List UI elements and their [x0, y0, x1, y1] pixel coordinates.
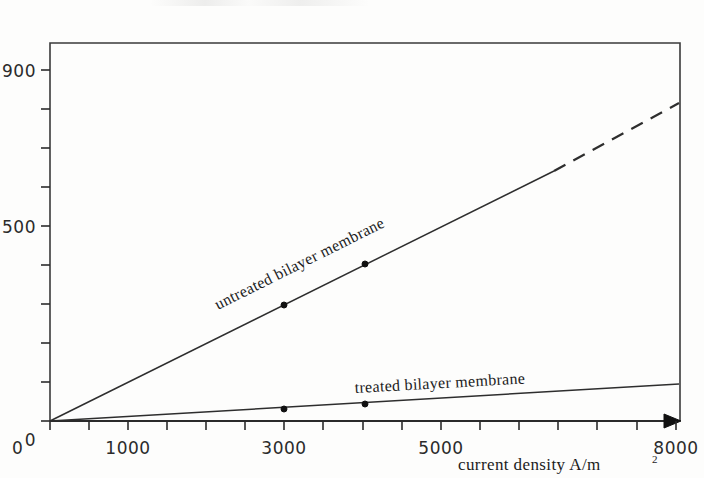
- series-untreated-line-dashed: [554, 103, 679, 171]
- data-point-untreated-4000: [362, 261, 368, 267]
- x-tick-label-1000: 1000: [105, 438, 150, 458]
- y-axis-ticks: [41, 70, 50, 421]
- line-chart: 900 500 0 0 1000 3000 5000 8000: [0, 0, 704, 478]
- y-tick-label-900: 900: [2, 61, 36, 81]
- data-point-treated-3000: [281, 406, 287, 412]
- y-tick-label-0: 0: [25, 430, 36, 450]
- y-tick-label-500: 500: [2, 217, 36, 237]
- data-point-treated-4000: [362, 401, 368, 407]
- x-tick-label-8000: 8000: [653, 438, 698, 458]
- x-tick-label-3000: 3000: [261, 438, 306, 458]
- x-tick-label-0: 0: [12, 438, 23, 458]
- series-label-untreated: untreated bilayer membrane: [212, 214, 388, 314]
- x-axis-ticks: [50, 421, 676, 430]
- x-tick-label-5000: 5000: [418, 438, 463, 458]
- chart-page: 900 500 0 0 1000 3000 5000 8000: [0, 0, 704, 478]
- data-point-untreated-3000: [281, 302, 287, 308]
- x-axis-title-superscript: 2: [652, 453, 658, 465]
- x-axis-title: current density A/m: [458, 455, 601, 474]
- series-label-treated: treated bilayer membrane: [354, 369, 525, 396]
- x-axis-arrowhead: [664, 414, 681, 428]
